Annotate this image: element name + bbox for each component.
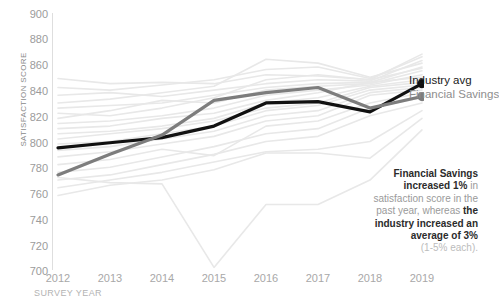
annotation-line-7: (1-5% each). [332, 242, 478, 254]
y-tick-800: 800 [2, 138, 48, 149]
annotation-text-4: past year, whereas [376, 205, 463, 216]
legend-label-financial-savings: Financial Savings [409, 88, 499, 100]
annotation-line-1: Financial Savings [332, 168, 478, 180]
y-tick-860: 860 [2, 60, 48, 71]
x-tick-2015: 2015 [188, 272, 240, 284]
y-tick-720: 720 [2, 241, 48, 252]
y-tick-760: 760 [2, 189, 48, 200]
y-tick-820: 820 [2, 112, 48, 123]
x-tick-2012: 2012 [32, 272, 84, 284]
annotation-text-2-suffix: in [467, 180, 478, 191]
y-tick-740: 740 [2, 215, 48, 226]
x-tick-2018: 2018 [344, 272, 396, 284]
x-tick-2019: 2019 [396, 272, 448, 284]
legend-label-industry-avg: Industry avg [409, 74, 472, 86]
annotation-text-4-suffix: the [463, 205, 478, 216]
annotation-line-4: past year, whereas the [332, 205, 478, 217]
x-tick-2016: 2016 [240, 272, 292, 284]
x-tick-2013: 2013 [84, 272, 136, 284]
y-tick-900: 900 [2, 9, 48, 20]
annotation-text-bold-5: industry increased an [375, 218, 478, 229]
legend-item-industry-avg[interactable]: Industry avg [409, 74, 472, 87]
x-tick-2014: 2014 [136, 272, 188, 284]
annotation-text-bold-6: average of 3% [411, 230, 478, 241]
x-axis-title: SURVEY YEAR [34, 288, 102, 298]
y-tick-840: 840 [2, 86, 48, 97]
annotation-text-bold-2: increased 1% [404, 180, 468, 191]
legend-item-financial-savings[interactable]: Financial Savings [409, 88, 499, 101]
annotation-callout: Financial Savings increased 1% in satisf… [332, 168, 478, 255]
annotation-line-3: satisfaction score in the [332, 193, 478, 205]
annotation-line-6: average of 3% [332, 230, 478, 242]
y-tick-880: 880 [2, 34, 48, 45]
annotation-line-2: increased 1% in [332, 180, 478, 192]
x-tick-2017: 2017 [292, 272, 344, 284]
y-axis-tick-labels: 900 880 860 840 820 800 780 760 740 720 … [0, 0, 48, 305]
y-tick-780: 780 [2, 163, 48, 174]
annotation-text-bold-1: Financial Savings [394, 168, 478, 179]
annotation-line-5: industry increased an [332, 218, 478, 230]
